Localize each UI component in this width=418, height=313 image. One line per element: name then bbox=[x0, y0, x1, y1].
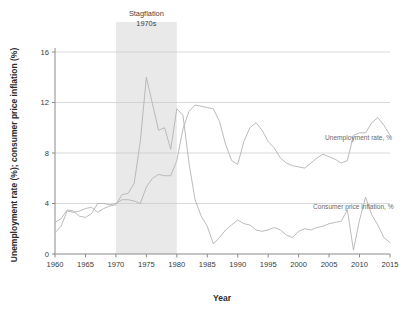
stagflation-annotation-line1: Stagflation bbox=[129, 9, 164, 18]
x-tick-label: 1960 bbox=[47, 260, 64, 269]
x-tick-label: 1965 bbox=[77, 260, 94, 269]
chart-figure: 0481216 19601965197019751980198519901995… bbox=[0, 0, 418, 313]
y-tick-label: 0 bbox=[45, 250, 49, 259]
x-tick-label: 1990 bbox=[229, 260, 246, 269]
x-tick-label: 1995 bbox=[260, 260, 277, 269]
series-label-consumer-price-inflation: Consumer price inflation, % bbox=[313, 203, 394, 211]
x-tick-label: 1985 bbox=[199, 260, 216, 269]
stagflation-annotation-line2: 1970s bbox=[136, 19, 156, 28]
x-tick-label: 2000 bbox=[290, 260, 307, 269]
y-axis-label: Unemployment rate (%); consumer price in… bbox=[9, 48, 19, 263]
x-tick-label: 2015 bbox=[382, 260, 399, 269]
y-tick-label: 12 bbox=[41, 98, 49, 107]
x-tick-label: 1980 bbox=[168, 260, 185, 269]
series-label-unemployment-rate: Unemployment rate, % bbox=[325, 134, 392, 142]
chart-svg: 0481216 19601965197019751980198519901995… bbox=[0, 0, 418, 313]
x-tick-label: 1970 bbox=[107, 260, 124, 269]
x-axis-label: Year bbox=[213, 293, 232, 303]
x-tick-label: 1975 bbox=[138, 260, 155, 269]
y-tick-label: 4 bbox=[45, 199, 49, 208]
x-tick-label: 2010 bbox=[351, 260, 368, 269]
y-tick-label: 16 bbox=[41, 48, 49, 57]
y-tick-label: 8 bbox=[45, 149, 49, 158]
x-tick-label: 2005 bbox=[321, 260, 338, 269]
